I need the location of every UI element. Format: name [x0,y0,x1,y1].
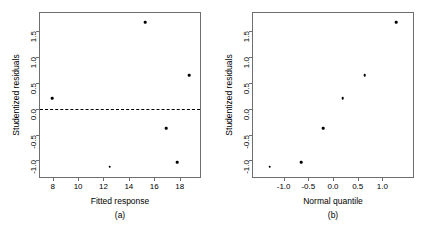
x-tick-label-a: 16 [150,182,159,191]
panel-b: Studentized residuals -1.0-0.50.00.51.0-… [213,0,426,228]
data-point [109,165,112,168]
y-tick-label-a: -0.5 [29,135,38,149]
zero-reference-line [40,109,200,110]
x-tick-a [78,177,79,181]
x-axis-title-b: Normal quantile [252,196,414,206]
data-point [144,21,147,24]
y-tick-label-b: 1.0 [242,57,251,68]
data-point [165,127,168,130]
data-point [188,74,191,77]
y-tick-label-a: -1.0 [29,160,38,174]
x-tick-label-a: 14 [124,182,133,191]
x-tick-a [129,177,130,181]
x-tick-b [333,177,334,181]
x-tick-label-a: 12 [99,182,108,191]
x-tick-label-b: 0.0 [327,182,338,191]
x-tick-b [308,177,309,181]
x-tick-b [284,177,285,181]
x-tick-a [53,177,54,181]
x-tick-a [103,177,104,181]
plot-area-b: -1.0-0.50.00.51.0-1.0-0.50.00.51.01.5 [252,12,414,178]
data-point [322,127,325,130]
data-point [300,161,303,164]
y-tick-label-a: 1.0 [29,57,38,68]
y-tick-label-a: 0.0 [29,109,38,120]
y-tick-label-a: 0.5 [29,83,38,94]
x-tick-label-b: -1.0 [277,182,291,191]
x-tick-b [382,177,383,181]
y-tick-label-b: 1.5 [242,31,251,42]
x-tick-a [180,177,181,181]
plot-area-a: 81012141618-1.0-0.50.00.51.01.5 [39,12,201,178]
x-tick-label-a: 18 [175,182,184,191]
y-tick-label-a: 1.5 [29,31,38,42]
data-point [176,161,179,164]
data-point [268,165,271,168]
x-tick-label-b: -0.5 [301,182,315,191]
x-tick-label-a: 10 [74,182,83,191]
y-tick-label-b: 0.5 [242,83,251,94]
data-point [51,97,54,100]
figure-container: Studentized residuals 81012141618-1.0-0.… [0,0,426,228]
y-tick-label-b: 0.0 [242,109,251,120]
panel-a: Studentized residuals 81012141618-1.0-0.… [0,0,213,228]
data-point [363,74,366,77]
x-tick-label-b: 1.0 [377,182,388,191]
y-tick-label-b: -0.5 [242,135,251,149]
x-tick-label-b: 0.5 [352,182,363,191]
x-tick-label-a: 8 [50,182,54,191]
x-tick-b [358,177,359,181]
x-axis-title-a: Fitted response [39,196,201,206]
y-axis-title-a: Studentized residuals [10,12,22,178]
data-point [395,21,398,24]
y-tick-label-b: -1.0 [242,160,251,174]
x-tick-a [154,177,155,181]
panel-caption-a: (a) [39,210,201,220]
data-point [342,97,345,100]
panel-caption-b: (b) [252,210,414,220]
y-axis-title-b: Studentized residuals [223,12,235,178]
